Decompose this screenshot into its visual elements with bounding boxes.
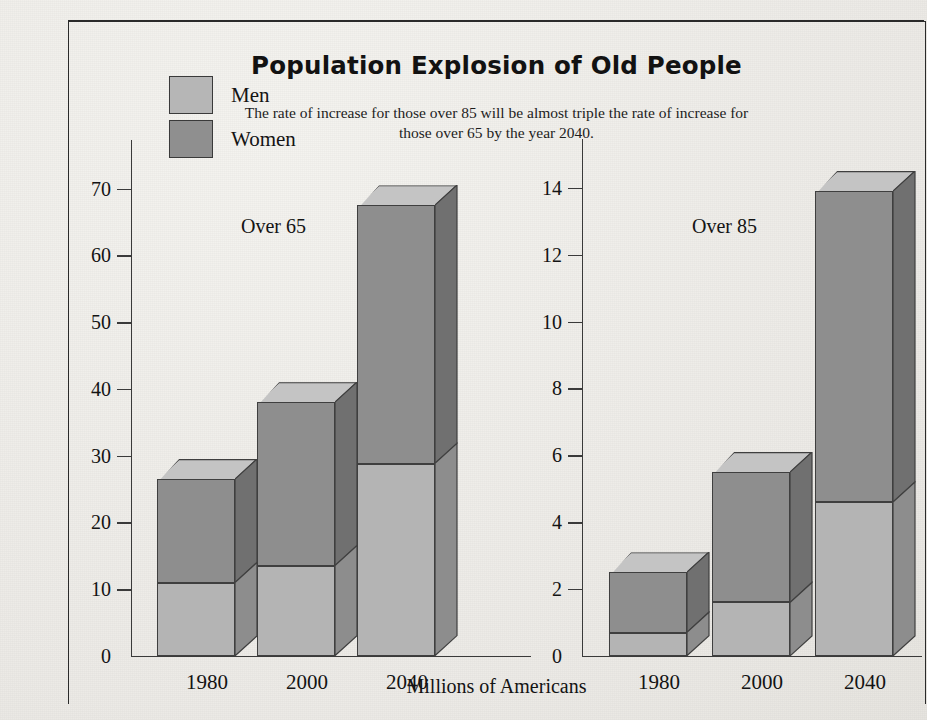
- y-axis-tick-label: 0: [522, 645, 562, 668]
- bar-2000: [712, 452, 812, 656]
- bar-segment-women: [157, 479, 235, 582]
- bar-side-faces: [435, 185, 459, 658]
- y-axis-tick-label: 10: [522, 310, 562, 333]
- panel-caption: Over 65: [241, 215, 306, 238]
- y-axis-tick-label: 30: [55, 444, 111, 467]
- chart-canvas: Population Explosion of Old People The r…: [69, 21, 924, 704]
- panel-caption: Over 85: [692, 215, 757, 238]
- y-axis-tick: [568, 455, 582, 456]
- y-axis-tick-label: 8: [522, 377, 562, 400]
- bar-segment-women: [257, 402, 335, 566]
- bar-side-faces: [235, 459, 259, 658]
- y-axis-tick-label: 40: [55, 377, 111, 400]
- y-axis-tick: [117, 456, 131, 457]
- y-axis-tick-label: 70: [55, 177, 111, 200]
- bar-segment-men: [357, 464, 435, 656]
- y-axis-tick: [568, 255, 582, 256]
- bar-segment-men: [257, 566, 335, 656]
- y-axis-line: [582, 139, 583, 656]
- y-axis-tick-label: 0: [55, 645, 111, 668]
- y-axis-tick: [117, 589, 131, 590]
- y-axis-tick: [568, 388, 582, 389]
- bar-segment-women: [357, 205, 435, 463]
- y-axis-tick: [117, 389, 131, 390]
- y-axis-tick-label: 4: [522, 511, 562, 534]
- y-axis-tick: [117, 522, 131, 523]
- y-axis-tick-label: 6: [522, 444, 562, 467]
- bar-2040: [357, 185, 457, 656]
- y-axis-tick: [568, 589, 582, 590]
- bar-segment-women: [712, 472, 790, 602]
- bar-segment-men: [157, 583, 235, 656]
- y-axis-tick: [117, 255, 131, 256]
- bar-segment-men: [815, 502, 893, 656]
- bar-side-faces: [687, 552, 711, 658]
- y-axis-tick: [568, 522, 582, 523]
- y-axis-tick-label: 12: [522, 243, 562, 266]
- y-axis-tick: [568, 188, 582, 189]
- y-axis-tick: [568, 322, 582, 323]
- x-axis-title: Millions of Americans: [69, 675, 924, 698]
- y-axis-tick-label: 10: [55, 578, 111, 601]
- bar-segment-women: [815, 191, 893, 502]
- bar-1980: [157, 459, 257, 656]
- x-axis-line: [582, 656, 922, 657]
- y-axis-tick: [117, 322, 131, 323]
- bar-segment-women: [609, 572, 687, 632]
- y-axis-tick-label: 14: [522, 176, 562, 199]
- bar-side-faces: [790, 452, 814, 658]
- panel-over-85: 02468101214Over 85198020002040: [534, 21, 925, 704]
- y-axis-tick-label: 20: [55, 511, 111, 534]
- y-axis-tick: [117, 189, 131, 190]
- y-axis-tick-label: 2: [522, 578, 562, 601]
- bar-segment-men: [609, 633, 687, 656]
- bar-segment-men: [712, 602, 790, 656]
- y-axis-line: [131, 140, 132, 656]
- y-axis-tick-label: 50: [55, 311, 111, 334]
- bar-side-faces: [893, 171, 917, 658]
- bar-side-faces: [335, 382, 359, 658]
- y-axis-tick-label: 60: [55, 244, 111, 267]
- chart-frame: Population Explosion of Old People The r…: [68, 20, 924, 704]
- bar-2000: [257, 382, 357, 656]
- bar-2040: [815, 171, 915, 656]
- panel-over-65: 010203040506070Over 65198020002040: [69, 21, 534, 704]
- bar-1980: [609, 552, 709, 656]
- x-axis-line: [131, 656, 531, 657]
